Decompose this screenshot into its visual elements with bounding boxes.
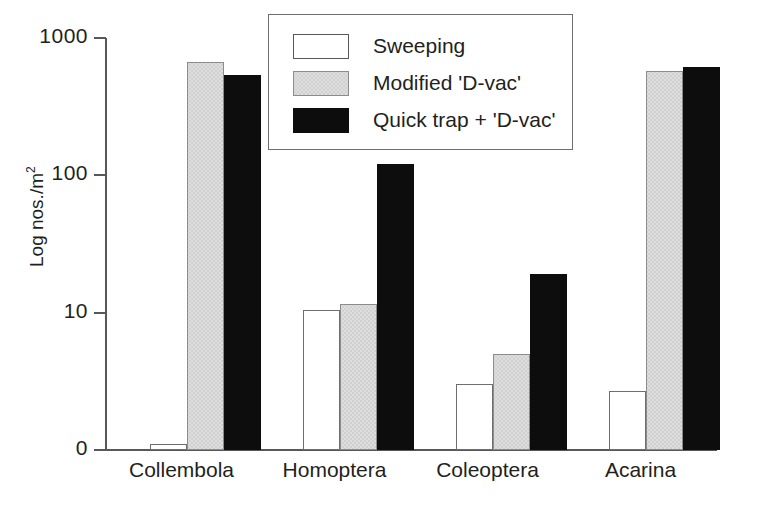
- bar-collembola-quick: [224, 75, 261, 450]
- bar-chart: Log nos./m2 1000100100 CollembolaHomopte…: [0, 0, 762, 510]
- x-axis-label-coleoptera: Coleoptera: [411, 458, 564, 482]
- bar-acarina-quick: [683, 67, 720, 450]
- bar-acarina-sweeping: [609, 391, 646, 450]
- y-axis-tick-label-wrap: 100: [0, 161, 88, 187]
- x-axis-label-homoptera: Homoptera: [258, 458, 411, 482]
- legend-swatch-sweeping: [293, 34, 349, 59]
- legend-item-sweeping: Sweeping: [269, 29, 572, 63]
- y-axis-tick-label-wrap: 0: [0, 436, 88, 462]
- y-axis-tick-label-wrap: 10: [0, 299, 88, 325]
- legend-label-quick: Quick trap + 'D-vac': [373, 108, 556, 132]
- legend-swatch-quick: [293, 108, 349, 133]
- legend-swatch-dvac: [293, 71, 349, 96]
- bar-collembola-dvac: [187, 62, 224, 450]
- y-axis-tick-label: 1000: [39, 24, 88, 48]
- legend-label-dvac: Modified 'D-vac': [373, 71, 521, 95]
- chart-legend: SweepingModified 'D-vac'Quick trap + 'D-…: [268, 14, 573, 150]
- legend-item-dvac: Modified 'D-vac': [269, 66, 572, 100]
- bar-homoptera-dvac: [340, 304, 377, 450]
- bar-homoptera-sweeping: [303, 310, 340, 450]
- y-axis-tick-label: 100: [51, 161, 88, 185]
- bar-coleoptera-dvac: [493, 354, 530, 450]
- x-axis-label-acarina: Acarina: [564, 458, 717, 482]
- y-axis-tick-label: 0: [76, 436, 88, 460]
- legend-label-sweeping: Sweeping: [373, 34, 465, 58]
- bar-acarina-dvac: [646, 71, 683, 451]
- legend-item-quick: Quick trap + 'D-vac': [269, 103, 572, 137]
- bar-homoptera-quick: [377, 164, 414, 450]
- bar-collembola-sweeping: [150, 444, 187, 450]
- y-axis-tick-label-wrap: 1000: [0, 24, 88, 50]
- y-axis-tick-label: 10: [64, 299, 88, 323]
- bar-coleoptera-quick: [530, 274, 567, 450]
- bar-coleoptera-sweeping: [456, 384, 493, 450]
- x-axis-label-collembola: Collembola: [105, 458, 258, 482]
